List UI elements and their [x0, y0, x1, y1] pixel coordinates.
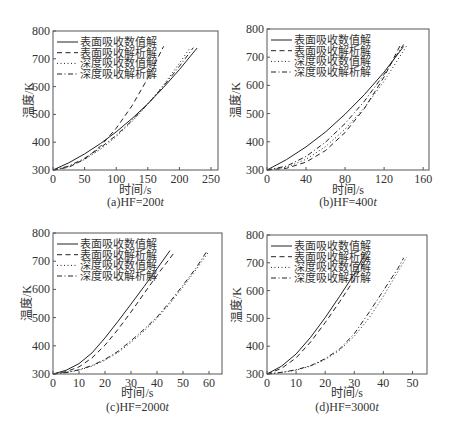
y-tick-label: 300	[32, 367, 50, 381]
y-tick-label: 500	[32, 311, 50, 325]
x-tick-label: 10	[290, 376, 302, 390]
legend-label: 深度吸收解析解	[294, 271, 371, 284]
x-tick-label: 120	[375, 172, 393, 186]
y-tick-label: 600	[32, 80, 50, 94]
x-tick-label: 0	[50, 376, 56, 390]
caption-text: (b)HF=400	[319, 195, 373, 209]
y-tick-label: 500	[246, 107, 264, 121]
x-tick-label: 50	[406, 376, 418, 390]
x-tick-label: 80	[339, 172, 351, 186]
panel-caption: (d)HF=3000t	[315, 400, 379, 414]
x-tick-label: 0	[264, 376, 270, 390]
x-tick-label: 40	[151, 376, 163, 390]
y-tick-label: 400	[246, 339, 264, 353]
y-tick-label: 400	[32, 135, 50, 149]
y-tick-label: 800	[32, 24, 50, 38]
x-tick-label: 10	[73, 376, 85, 390]
panel-caption: (b)HF=400t	[319, 195, 377, 209]
caption-text: (d)HF=3000	[315, 400, 375, 414]
x-tick-label: 100	[107, 172, 125, 186]
y-tick-label: 700	[32, 254, 50, 268]
y-tick-label: 400	[246, 135, 264, 149]
x-tick-label: 50	[79, 172, 91, 186]
x-tick-label: 0	[264, 172, 270, 186]
y-tick-label: 600	[246, 78, 264, 92]
y-axis-label: 温度/K	[229, 287, 244, 323]
x-tick-label: 60	[203, 376, 215, 390]
y-tick-label: 800	[246, 228, 264, 242]
x-tick-label: 150	[139, 172, 157, 186]
legend-label: 深度吸收解析解	[80, 67, 157, 80]
legend-label: 深度吸收解析解	[294, 65, 371, 78]
x-tick-label: 20	[319, 376, 331, 390]
y-tick-label: 700	[32, 52, 50, 66]
y-tick-label: 700	[246, 256, 264, 270]
y-tick-label: 500	[246, 311, 264, 325]
y-tick-label: 500	[32, 107, 50, 121]
figure: 温度/K 时间/s (a)HF=200t 0501001502002503004…	[0, 0, 453, 433]
y-tick-label: 700	[246, 50, 264, 64]
panel-caption: (c)HF=2000t	[106, 400, 169, 414]
x-tick-label: 20	[99, 376, 111, 390]
x-tick-label: 30	[125, 376, 137, 390]
y-tick-label: 400	[32, 339, 50, 353]
x-tick-label: 160	[414, 172, 432, 186]
x-tick-label: 40	[377, 376, 389, 390]
legend-label: 深度吸收解析解	[80, 269, 157, 282]
x-tick-label: 200	[170, 172, 188, 186]
y-tick-label: 600	[246, 284, 264, 298]
y-tick-label: 300	[246, 163, 264, 177]
y-tick-label: 800	[246, 22, 264, 36]
x-tick-label: 250	[202, 172, 220, 186]
x-tick-label: 50	[177, 376, 189, 390]
x-tick-label: 30	[348, 376, 360, 390]
caption-text: (a)HF=200	[107, 195, 160, 209]
y-axis-label: 温度/K	[228, 82, 243, 118]
background	[0, 0, 453, 433]
x-tick-label: 40	[300, 172, 312, 186]
y-tick-label: 300	[32, 163, 50, 177]
y-tick-label: 800	[32, 226, 50, 240]
y-tick-label: 300	[246, 367, 264, 381]
x-tick-label: 0	[50, 172, 56, 186]
caption-text: (c)HF=2000	[106, 400, 165, 414]
y-tick-label: 600	[32, 282, 50, 296]
panel-caption: (a)HF=200t	[107, 195, 164, 209]
